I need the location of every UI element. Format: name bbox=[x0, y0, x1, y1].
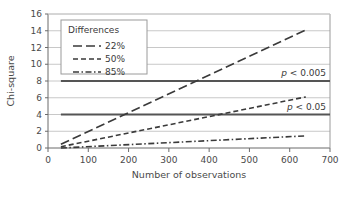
y-tick-label-12: 12 bbox=[31, 43, 42, 53]
y-axis-title: Chi-square bbox=[5, 55, 16, 106]
chart-container: 0246810121416 0100200300400500600700 p <… bbox=[0, 0, 353, 201]
x-tick-label-100: 100 bbox=[80, 155, 97, 165]
y-tick-label-14: 14 bbox=[31, 26, 43, 36]
legend-box: Differences 22%50%85% bbox=[61, 20, 147, 77]
x-axis-title: Number of observations bbox=[132, 169, 247, 180]
y-tick-label-16: 16 bbox=[31, 9, 43, 19]
x-tick-label-700: 700 bbox=[321, 155, 338, 165]
chi-square-line-chart: 0246810121416 0100200300400500600700 p <… bbox=[0, 0, 353, 201]
legend-label-85pct: 85% bbox=[105, 67, 125, 77]
x-tick-label-500: 500 bbox=[241, 155, 258, 165]
x-tick-label-400: 400 bbox=[201, 155, 218, 165]
annotation-p005: p < 0.05 bbox=[286, 102, 326, 112]
x-tick-label-200: 200 bbox=[120, 155, 137, 165]
legend-label-50pct: 50% bbox=[105, 54, 125, 64]
y-tick-label-8: 8 bbox=[36, 76, 42, 86]
legend-label-22pct: 22% bbox=[105, 41, 125, 51]
legend-title: Differences bbox=[68, 25, 119, 35]
y-tick-label-2: 2 bbox=[36, 126, 42, 136]
y-tick-label-0: 0 bbox=[36, 143, 42, 153]
x-tick-label-300: 300 bbox=[160, 155, 177, 165]
x-tick-label-0: 0 bbox=[45, 155, 51, 165]
y-tick-label-4: 4 bbox=[36, 110, 42, 120]
y-tick-label-6: 6 bbox=[36, 93, 42, 103]
x-tick-label-600: 600 bbox=[281, 155, 298, 165]
annotation-p0005: p < 0.005 bbox=[280, 68, 326, 78]
y-tick-label-10: 10 bbox=[31, 59, 43, 69]
